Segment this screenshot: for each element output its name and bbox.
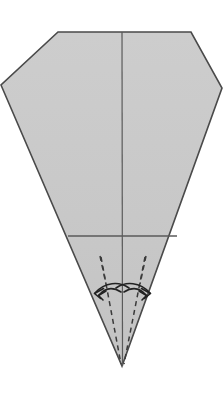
center-vertical-crease bbox=[122, 32, 123, 366]
origami-diagram-root bbox=[0, 0, 223, 393]
origami-figure bbox=[0, 0, 223, 393]
